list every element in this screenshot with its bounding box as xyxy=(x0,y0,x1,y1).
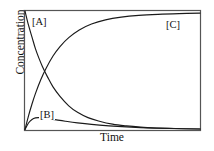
series-label-c: [C] xyxy=(165,19,181,30)
x-axis-label: Time xyxy=(24,131,200,143)
series-label-a: [A] xyxy=(31,16,48,27)
series-label-b: [B] xyxy=(39,109,55,120)
chart-figure: Concentration [A] [B] [C] Time xyxy=(0,0,214,151)
